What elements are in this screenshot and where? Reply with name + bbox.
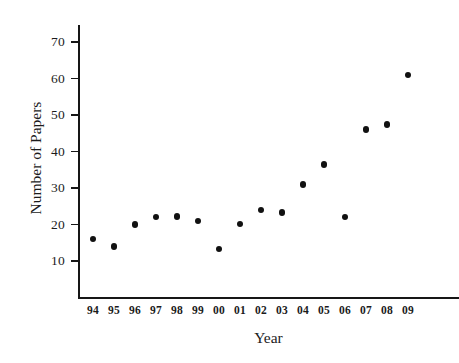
data-point bbox=[216, 246, 222, 252]
data-point bbox=[132, 221, 138, 227]
chart-figure: 10203040506070 9495969798990001020304050… bbox=[0, 0, 459, 363]
data-point bbox=[258, 207, 264, 213]
data-point bbox=[342, 214, 348, 220]
y-axis-tick-label: 10 bbox=[19, 254, 65, 268]
y-axis-tick-label: 70 bbox=[19, 35, 65, 49]
y-axis-line bbox=[78, 25, 80, 299]
data-point bbox=[237, 221, 243, 227]
data-point bbox=[279, 209, 285, 215]
data-point bbox=[195, 218, 201, 224]
data-point bbox=[153, 214, 159, 220]
data-point bbox=[384, 121, 390, 127]
y-axis-tick bbox=[71, 41, 79, 42]
y-axis-tick bbox=[71, 260, 79, 261]
scatter-plot-area: 10203040506070 9495969798990001020304050… bbox=[0, 0, 459, 363]
y-axis-tick bbox=[71, 224, 79, 225]
y-axis-tick bbox=[71, 114, 79, 115]
y-axis-title: Number of Papers bbox=[28, 73, 44, 243]
y-axis-tick bbox=[71, 78, 79, 79]
x-axis-tick-label: 09 bbox=[395, 304, 421, 316]
x-axis-title: Year bbox=[78, 330, 459, 346]
data-point bbox=[111, 243, 117, 249]
y-axis-tick bbox=[71, 151, 79, 152]
data-point bbox=[363, 126, 369, 132]
data-point bbox=[174, 213, 180, 219]
data-point bbox=[300, 181, 306, 187]
data-point bbox=[321, 161, 327, 167]
y-axis-tick bbox=[71, 187, 79, 188]
data-point bbox=[405, 72, 411, 78]
data-point bbox=[90, 236, 96, 242]
x-axis-line bbox=[78, 297, 459, 299]
